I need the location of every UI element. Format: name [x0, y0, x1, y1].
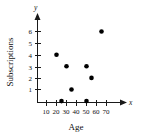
- x-axis-arrow-icon: [120, 100, 127, 106]
- y-tick-label: 5: [29, 40, 33, 48]
- plot-canvas: x y 10 20 30 40 50 60 70: [0, 0, 141, 140]
- data-point: [54, 52, 59, 57]
- y-axis-tick-labels: 1 2 3 4 5 6: [29, 28, 33, 94]
- x-axis-tick-labels: 10 20 30 40 50 60 70: [43, 108, 111, 116]
- data-point: [59, 99, 64, 104]
- x-tick-label: 60: [93, 108, 101, 116]
- x-tick-label: 50: [83, 108, 91, 116]
- data-point: [99, 29, 104, 34]
- x-tick-label: 40: [73, 108, 81, 116]
- y-tick-label: 4: [29, 52, 33, 60]
- x-tick-label: 70: [103, 108, 111, 116]
- x-tick-label: 10: [43, 108, 51, 116]
- data-point: [64, 64, 69, 69]
- data-point: [69, 87, 74, 92]
- y-axis-title: Subscriptions: [5, 37, 15, 87]
- x-tick-label: 30: [63, 108, 71, 116]
- data-points-layer: [54, 29, 104, 103]
- y-tick-label: 1: [29, 86, 33, 94]
- x-axis-title: Age: [69, 122, 84, 132]
- data-point: [89, 76, 94, 81]
- x-axis-variable-label: x: [128, 98, 133, 107]
- data-point: [84, 99, 89, 104]
- y-tick-label: 2: [29, 75, 33, 83]
- y-axis-variable-label: y: [33, 3, 38, 12]
- y-axis-arrow-icon: [35, 13, 41, 20]
- data-point: [84, 64, 89, 69]
- scatter-plot-figure: x y 10 20 30 40 50 60 70: [0, 0, 141, 140]
- y-tick-label: 6: [29, 28, 33, 36]
- x-tick-label: 20: [53, 108, 61, 116]
- y-tick-label: 3: [29, 64, 33, 72]
